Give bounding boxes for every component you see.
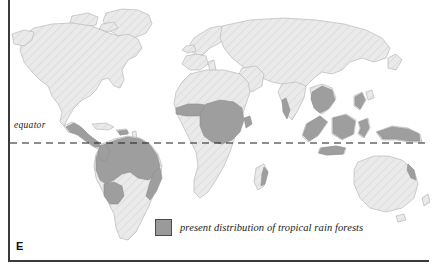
rainforest-caribbean [118, 130, 128, 135]
map-legend: present distribution of tropical rain fo… [155, 219, 363, 236]
equator-label: equator [14, 120, 46, 130]
figure-panel: equator present distribution of tropical… [0, 0, 432, 269]
legend-label: present distribution of tropical rain fo… [180, 222, 363, 233]
panel-letter: E [16, 240, 23, 252]
legend-swatch-rainforest [155, 219, 172, 236]
frame-bottom-rule [8, 260, 429, 262]
